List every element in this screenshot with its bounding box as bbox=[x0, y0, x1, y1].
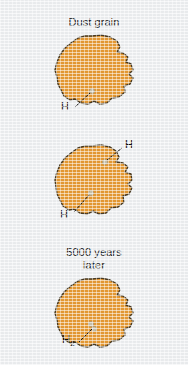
dust-grain-shape bbox=[55, 35, 133, 104]
hydrogen-atom-dot bbox=[89, 88, 94, 93]
atom-subscript: 2 bbox=[70, 339, 75, 348]
panel-5000-years-later: 5000 years later H2 bbox=[0, 240, 188, 365]
panel-dust-grain: Dust grain H bbox=[0, 0, 188, 122]
atom-symbol: H bbox=[61, 100, 69, 112]
panel-two-hydrogen: H H bbox=[0, 122, 188, 240]
hydrogen-molecule-dot-a bbox=[88, 321, 93, 326]
hydrogen-molecule-dot-b bbox=[91, 326, 96, 331]
dust-grain-shape bbox=[55, 145, 132, 214]
atom-symbol: H bbox=[125, 138, 133, 150]
dust-grain-diagram: Dust grain H H H bbox=[0, 0, 188, 365]
atom-symbol: H bbox=[62, 333, 70, 345]
hydrogen-atom-dot-lower bbox=[88, 190, 93, 195]
panel-2-grain-graphic bbox=[0, 122, 188, 240]
panel-1-grain-graphic bbox=[0, 0, 188, 122]
hydrogen-atom-dot-upper bbox=[102, 159, 107, 164]
panel-3-grain-graphic bbox=[0, 240, 188, 365]
panel-3-label-h2: H2 bbox=[62, 334, 75, 348]
panel-2-label-h-upper: H bbox=[125, 139, 133, 150]
panel-1-label-h: H bbox=[61, 101, 69, 112]
atom-symbol: H bbox=[60, 208, 68, 220]
panel-2-label-h-lower: H bbox=[60, 209, 68, 220]
